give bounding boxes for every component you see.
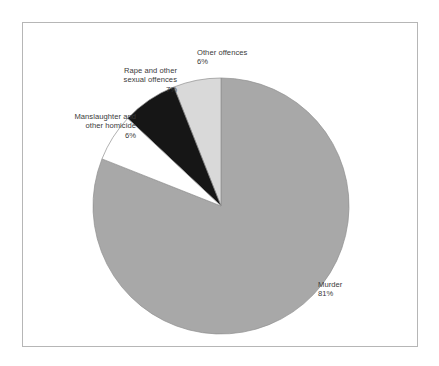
slice-value-murder: 81% xyxy=(318,289,342,298)
slice-label-rape-sexual-offences: Rape and other sexual offences 7% xyxy=(124,66,177,94)
slice-value-manslaughter-homicide: 6% xyxy=(74,131,136,140)
slice-value-rape-sexual-offences: 7% xyxy=(124,85,177,94)
slice-label-manslaughter-homicide: Manslaughter and other homicide 6% xyxy=(74,112,136,140)
slice-label-other-offences-line1: Other offences xyxy=(197,48,247,57)
slice-label-murder: Murder 81% xyxy=(318,280,342,299)
slice-label-murder-line1: Murder xyxy=(318,280,342,289)
slice-label-rape-sexual-offences-line2: sexual offences xyxy=(124,75,177,84)
slice-value-other-offences: 6% xyxy=(197,57,247,66)
slice-label-manslaughter-homicide-line2: other homicide xyxy=(85,121,136,130)
slice-label-manslaughter-homicide-line1: Manslaughter and xyxy=(74,112,136,121)
pie-chart-figure: Other offences 6% Rape and other sexual … xyxy=(0,0,439,366)
slice-label-rape-sexual-offences-line1: Rape and other xyxy=(124,66,177,75)
slice-label-other-offences: Other offences 6% xyxy=(197,48,247,67)
